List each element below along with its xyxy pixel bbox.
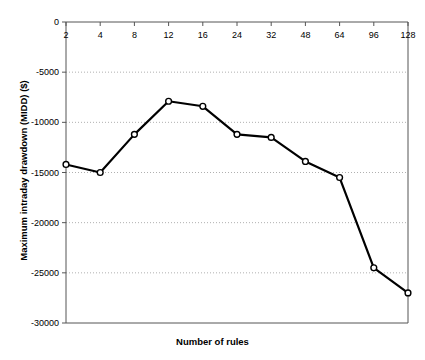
y-axis-ticks (62, 22, 66, 323)
svg-text:96: 96 (369, 30, 379, 40)
data-line (66, 101, 408, 293)
svg-text:0: 0 (54, 17, 59, 27)
svg-text:32: 32 (266, 30, 276, 40)
svg-text:64: 64 (335, 30, 345, 40)
svg-text:16: 16 (198, 30, 208, 40)
svg-text:2: 2 (63, 30, 68, 40)
svg-text:4: 4 (98, 30, 103, 40)
svg-text:12: 12 (164, 30, 174, 40)
x-axis-tick-labels: 24812162432486496128 (63, 30, 415, 40)
x-axis-title: Number of rules (0, 336, 425, 347)
y-axis-title: Maximum intraday drawdown (MIDD) ($) (10, 0, 36, 340)
data-markers (63, 98, 411, 295)
svg-text:128: 128 (400, 30, 415, 40)
line-chart: 0-5000-10000-15000-20000-25000-30000 248… (0, 0, 425, 360)
svg-text:-5000: -5000 (36, 67, 59, 77)
x-axis-ticks (66, 22, 408, 26)
svg-text:48: 48 (300, 30, 310, 40)
chart-figure: 0-5000-10000-15000-20000-25000-30000 248… (0, 0, 425, 360)
svg-text:24: 24 (232, 30, 242, 40)
y-axis-title-text: Maximum intraday drawdown (MIDD) ($) (18, 80, 29, 261)
svg-text:8: 8 (132, 30, 137, 40)
gridlines (66, 72, 408, 273)
